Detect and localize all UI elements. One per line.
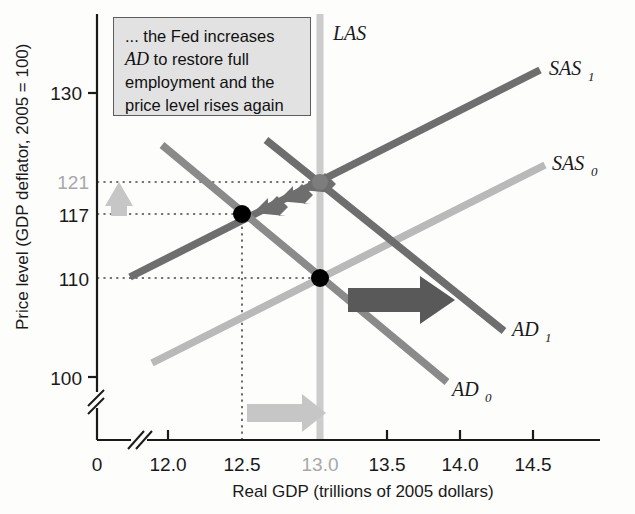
x-tick-label-0: 0 <box>92 454 103 475</box>
callout-line-4: price level rises again <box>125 94 301 117</box>
ad1-label-subscript: 1 <box>545 330 552 345</box>
ad0-curve <box>162 145 447 382</box>
sas0-label: SAS <box>552 152 584 174</box>
x-tick-label-13-5: 13.5 <box>369 454 406 475</box>
sas1-label-subscript: 1 <box>588 69 595 84</box>
equilibrium-dot-new <box>312 174 328 190</box>
y-tick-label-130: 130 <box>50 83 82 104</box>
explanation-callout: ... the Fed increases AD to restore full… <box>113 17 311 116</box>
economics-as-ad-chart: 130 121 117 110 100 Price level (GDP def… <box>0 0 635 514</box>
gdp-increase-arrow <box>247 394 326 432</box>
callout-line-1: ... the Fed increases <box>125 25 301 48</box>
y-tick-label-110: 110 <box>59 269 89 290</box>
x-tick-label-14-0: 14.0 <box>442 454 479 475</box>
callout-italic-ad: AD <box>125 49 149 69</box>
equilibrium-dot-initial <box>311 269 329 287</box>
sas0-label-group: SAS 0 <box>552 152 598 179</box>
sas0-label-subscript: 0 <box>591 164 598 179</box>
ad0-label: AD <box>450 378 479 400</box>
las-label: LAS <box>332 22 366 44</box>
sas0-curve <box>152 165 545 363</box>
x-axis-title: Real GDP (trillions of 2005 dollars) <box>232 482 493 501</box>
y-axis-title: Price level (GDP deflator, 2005 = 100) <box>13 44 32 331</box>
x-tick-label-12-0: 12.0 <box>150 454 187 475</box>
y-tick-label-100: 100 <box>50 368 82 389</box>
x-tick-label-12-5: 12.5 <box>224 454 261 475</box>
x-tick-label-13-0: 13.0 <box>302 454 339 475</box>
callout-line-2-rest: to restore full <box>149 50 249 68</box>
callout-line-2: AD to restore full <box>125 48 301 71</box>
price-level-rise-arrow <box>105 182 133 216</box>
chart-canvas: 130 121 117 110 100 Price level (GDP def… <box>0 0 635 514</box>
x-tick-label-14-5: 14.5 <box>515 454 552 475</box>
callout-line-3: employment and the <box>125 71 301 94</box>
ad1-label: AD <box>510 318 539 340</box>
ad0-label-subscript: 0 <box>485 390 492 405</box>
equilibrium-dot-intermediate <box>233 205 251 223</box>
ad1-label-group: AD 1 <box>510 318 552 345</box>
y-tick-label-121: 121 <box>57 172 89 193</box>
y-tick-label-117: 117 <box>59 205 89 226</box>
sas1-label-group: SAS 1 <box>549 57 595 84</box>
sas1-label: SAS <box>549 57 581 79</box>
ad0-label-group: AD 0 <box>450 378 492 405</box>
